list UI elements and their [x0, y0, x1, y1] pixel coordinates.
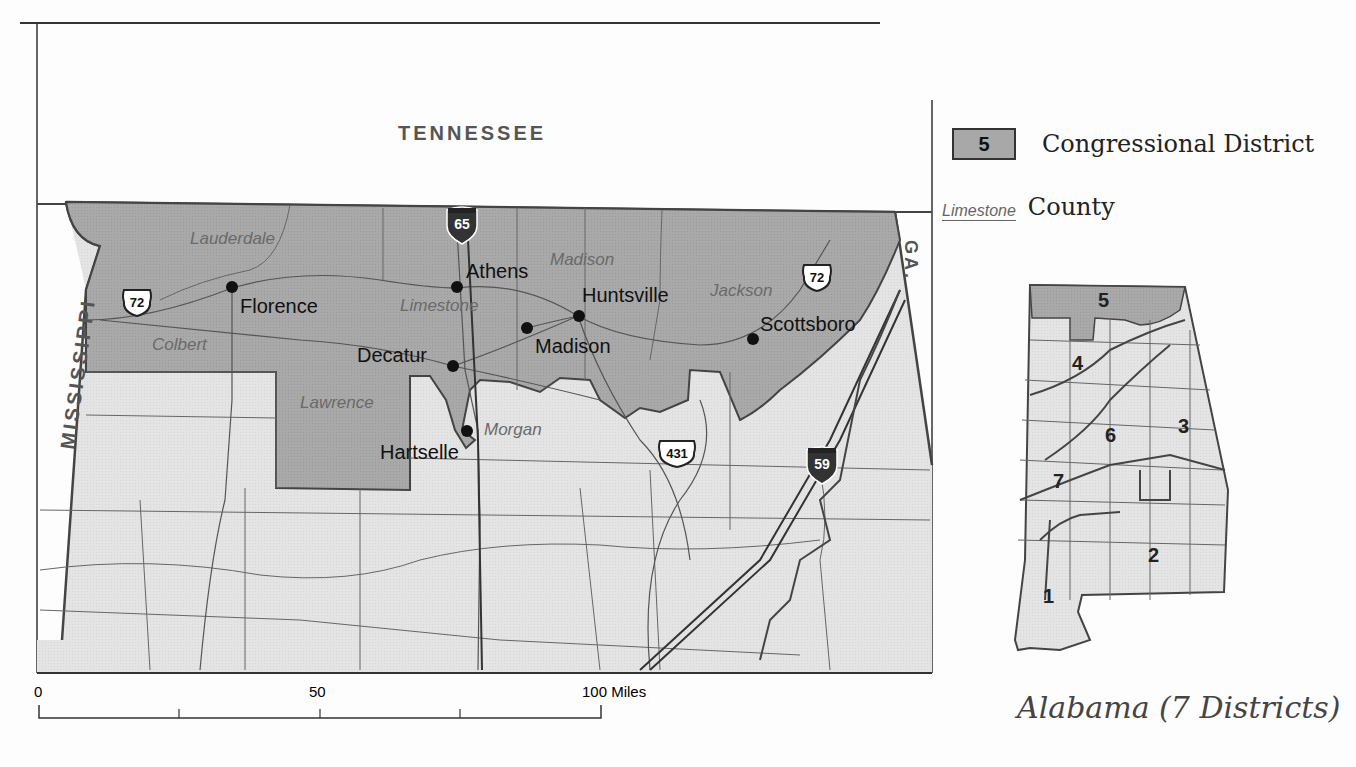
svg-text:Huntsville: Huntsville — [582, 284, 669, 306]
legend-county-sample: Limestone — [942, 202, 1016, 221]
county-label-jackson: Jackson — [709, 281, 772, 300]
georgia-label: GA. — [901, 240, 921, 281]
county-label-limestone: Limestone — [400, 296, 478, 315]
legend-county-label: County — [1028, 193, 1115, 221]
county-label-lauderdale: Lauderdale — [190, 229, 275, 248]
svg-text:72: 72 — [810, 270, 824, 285]
svg-text:50: 50 — [309, 683, 326, 700]
svg-text:Decatur: Decatur — [357, 344, 427, 366]
us-72-shield-east: 72 — [803, 265, 831, 291]
inset-district-7-label: 7 — [1053, 470, 1064, 492]
svg-text:431: 431 — [666, 446, 688, 461]
svg-text:100 Miles: 100 Miles — [582, 683, 646, 700]
svg-text:Hartselle: Hartselle — [380, 441, 459, 463]
svg-text:Florence: Florence — [240, 295, 318, 317]
us-431-shield: 431 — [659, 441, 695, 467]
svg-text:Scottsboro: Scottsboro — [760, 313, 856, 335]
svg-text:0: 0 — [34, 683, 42, 700]
svg-text:59: 59 — [814, 456, 830, 472]
inset-district-4-label: 4 — [1072, 352, 1084, 374]
legend-district: 5 Congressional District — [952, 128, 1314, 160]
inset-district-5-label: 5 — [1098, 289, 1109, 311]
svg-text:65: 65 — [454, 216, 470, 232]
svg-text:Madison: Madison — [535, 335, 611, 357]
svg-text:72: 72 — [130, 295, 144, 310]
svg-text:Athens: Athens — [466, 260, 528, 282]
inset-district-6-label: 6 — [1105, 424, 1116, 446]
inset-district-2-label: 2 — [1148, 544, 1159, 566]
district-map: TENNESSEE MISSISSIPPI GA. Lauderdale Col… — [0, 0, 1356, 767]
legend-district-label: Congressional District — [1042, 130, 1314, 158]
inset-alabama-map: 5 4 3 6 7 2 1 — [1015, 285, 1228, 650]
tennessee-label: TENNESSEE — [398, 122, 546, 144]
scale-bar: 0 50 100 Miles — [34, 683, 646, 718]
inset-district-3-label: 3 — [1178, 415, 1189, 437]
inset-district-1-label: 1 — [1043, 585, 1054, 607]
us-72-shield-west: 72 — [123, 290, 151, 316]
legend-county: Limestone County — [942, 193, 1115, 221]
county-label-morgan: Morgan — [484, 420, 542, 439]
county-label-madison: Madison — [550, 250, 614, 269]
inset-title: Alabama (7 Districts) — [1017, 690, 1340, 725]
county-label-colbert: Colbert — [152, 335, 208, 354]
county-label-lawrence: Lawrence — [300, 393, 374, 412]
legend-district-swatch: 5 — [952, 128, 1016, 160]
